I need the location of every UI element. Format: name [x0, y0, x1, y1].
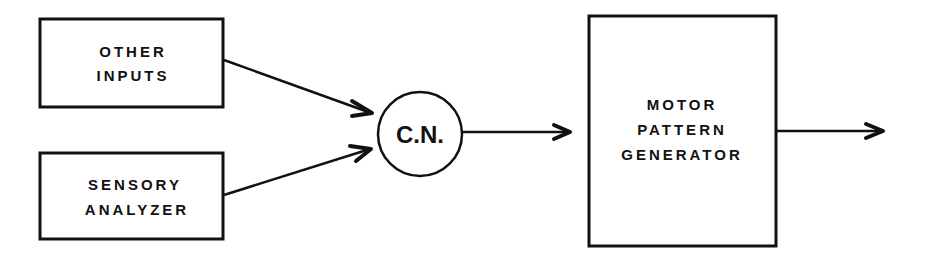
cn-label: C.N. [396, 121, 444, 148]
other-inputs-label-line1: OTHER [99, 43, 167, 60]
other-inputs-box [40, 19, 223, 107]
edge-mpg-to-output [777, 124, 883, 138]
sensory-analyzer-label-line2: ANALYZER [85, 201, 189, 218]
edge-cn-to-mpg [462, 125, 570, 139]
edge-line [224, 149, 370, 195]
sensory-analyzer-node: SENSORY ANALYZER [40, 153, 223, 239]
block-diagram: OTHER INPUTS SENSORY ANALYZER C.N. MOTOR… [0, 0, 928, 261]
sensory-analyzer-box [40, 153, 223, 239]
motor-pattern-generator-node: MOTOR PATTERN GENERATOR [589, 16, 776, 246]
other-inputs-node: OTHER INPUTS [40, 19, 223, 107]
edge-line [224, 60, 371, 113]
other-inputs-label-line2: INPUTS [96, 67, 169, 84]
sensory-analyzer-label-line1: SENSORY [88, 176, 182, 193]
edge-sensory-analyzer-to-cn [224, 146, 371, 195]
cn-node: C.N. [378, 92, 462, 176]
mpg-label-line2: PATTERN [637, 121, 727, 138]
mpg-label-line3: GENERATOR [621, 146, 742, 163]
mpg-label-line1: MOTOR [647, 96, 718, 113]
edge-other-inputs-to-cn [224, 60, 372, 116]
